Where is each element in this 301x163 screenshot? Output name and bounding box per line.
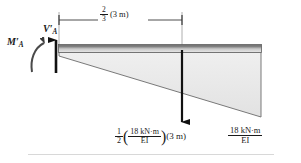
dimension-numerator: 2 (100, 6, 108, 14)
resultant-value-denominator: EI (128, 136, 161, 145)
end-ordinate-denominator: EI (228, 135, 262, 145)
moment-reaction-label: M′A (7, 37, 24, 49)
resultant-half-fraction: 1 2 (115, 128, 123, 146)
resultant-value-fraction: 18 kN·m EI (128, 128, 161, 146)
resultant-length: (3 m) (166, 132, 186, 141)
end-ordinate-fraction: 18 kN·m EI (228, 126, 262, 145)
resultant-force-label: 1 2 ( 18 kN·m EI )(3 m) (115, 128, 186, 146)
m-over-ei-triangle (59, 52, 261, 117)
resultant-value-numerator: 18 kN·m (128, 128, 161, 136)
dimension-label: 2 3 (3 m) (100, 6, 129, 23)
end-ordinate-label: 18 kN·m EI (228, 126, 262, 145)
dimension-fraction: 2 3 (100, 6, 108, 23)
dimension-length: (3 m) (110, 10, 129, 19)
resultant-half-denominator: 2 (115, 136, 123, 145)
shear-reaction-label: V′A (43, 24, 57, 36)
footer-rule (28, 154, 274, 155)
moment-reaction-arrow (32, 43, 45, 72)
shear-subscript: A (52, 28, 57, 36)
resultant-half-numerator: 1 (115, 128, 123, 136)
end-ordinate-numerator: 18 kN·m (228, 126, 262, 135)
shear-symbol: V (43, 23, 50, 34)
moment-subscript: A (19, 41, 24, 49)
beam-band (59, 45, 262, 53)
figure-canvas: 2 3 (3 m) V′A M′A 1 2 ( 18 kN·m EI )(3 m… (0, 0, 301, 163)
moment-symbol: M (7, 36, 16, 47)
dimension-denominator: 3 (100, 14, 108, 23)
